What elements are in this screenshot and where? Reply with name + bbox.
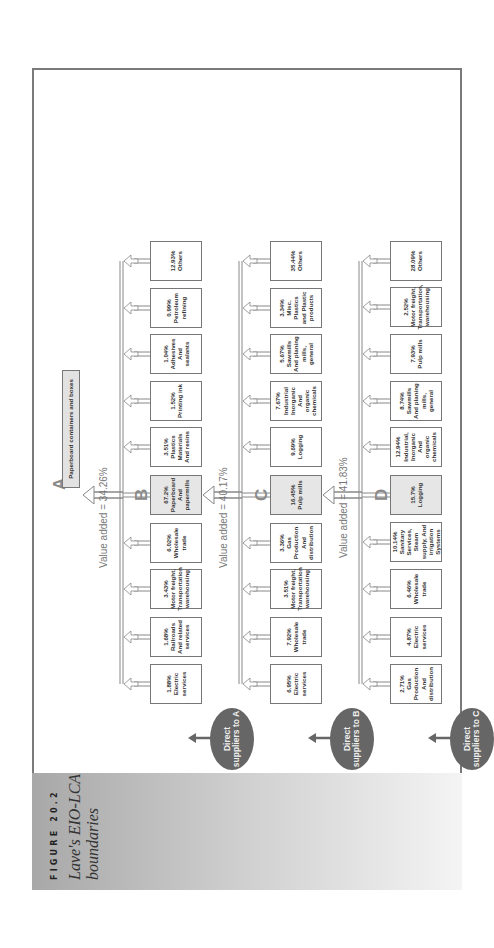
- sector-name: Pulp mills: [416, 339, 423, 368]
- main-sector-box: 15.7%Logging: [390, 475, 442, 515]
- sector-percent: 9.69%: [289, 435, 296, 459]
- sector-percent: 5.67%: [278, 336, 285, 372]
- sector-name: Electric services: [292, 666, 306, 702]
- sector-name: Gas Production And distribution: [405, 666, 434, 702]
- sector-percent: 3.34%: [278, 290, 285, 326]
- sector-percent: 1.68%: [162, 619, 169, 655]
- sector-percent: 6.46%: [405, 571, 412, 607]
- sector-percent: 7.67%: [274, 383, 281, 419]
- sector-name: Industrial Inorganic And organic chemica…: [282, 383, 318, 419]
- sector-percent: 1.88%: [165, 666, 172, 702]
- supplier-box: 7.92%Wholesale trade: [270, 617, 322, 657]
- supplier-box: 1.68%Railroads And related services: [150, 617, 202, 657]
- sector-name: Paperboard And papermills: [169, 477, 191, 513]
- supplier-box: 1.88%Electric services: [150, 664, 202, 704]
- sector-percent: 1.04%: [162, 336, 169, 372]
- sector-percent: 8.74%: [398, 383, 405, 419]
- supplier-box: 1.52%Printing ink: [150, 381, 202, 421]
- sector-percent: 3.51%: [162, 429, 169, 465]
- sector-name: Logging: [296, 435, 303, 459]
- supplier-box: 1.04%Adhesives And sealants: [150, 334, 202, 374]
- supplier-box: 6.46%Wholesale trade: [390, 569, 442, 609]
- sector-name: Electric services: [412, 619, 426, 655]
- supplier-box: 6.02%Wholesale trade: [150, 523, 202, 563]
- supplier-box: 35.44%Others: [270, 241, 322, 281]
- supplier-box: 10.14%Sanitary Services, Steam supply, A…: [390, 522, 442, 562]
- sector-percent: 16.45%: [289, 480, 296, 509]
- supplier-box: 2.71%Gas Production And distribution: [390, 664, 442, 704]
- main-sector-box: 67.2%Paperboard And papermills: [150, 475, 202, 515]
- sector-percent: 4.87%: [405, 619, 412, 655]
- supplier-box: 12.93%Others: [150, 241, 202, 281]
- sector-name: Motor freight, Transportation warehousin…: [289, 567, 311, 610]
- sector-percent: 2.71%: [398, 666, 405, 702]
- supplier-box: 9.69%Logging: [270, 427, 322, 467]
- sector-percent: 67.2%: [162, 477, 169, 513]
- sector-percent: 35.44%: [289, 251, 296, 272]
- sector-percent: 10.14%: [391, 524, 398, 560]
- sector-name: Motor freight, Transportation, warehousi…: [409, 284, 431, 329]
- direct-suppliers-ellipse: Direct suppliers to B: [330, 708, 374, 770]
- sector-name: Wholesale trade: [412, 571, 426, 607]
- sector-percent: 2.52%: [402, 284, 409, 329]
- sector-name: Sawmills And planing mills, general: [405, 383, 434, 419]
- sector-name: Sawmills And planing mills, general: [285, 336, 314, 372]
- value-added-label: Value added = 40.17%: [218, 467, 229, 568]
- supplier-box: 7.93%Pulp mills: [390, 334, 442, 374]
- sector-percent: 3.43%: [162, 567, 169, 610]
- sector-name: Plastics Materials And resins: [169, 429, 191, 465]
- root-box: Paperboard containers and boxes: [62, 370, 80, 488]
- sector-name: Misc. Plastics and Plastic products: [285, 290, 314, 326]
- sector-percent: 3.36%: [278, 525, 285, 561]
- supplier-box: 5.67%Sawmills And planing mills, general: [270, 334, 322, 374]
- sector-name: Logging: [416, 483, 423, 507]
- sector-name: Railroads And related services: [169, 619, 191, 655]
- sector-name: Electric services: [172, 666, 186, 702]
- supplier-box: 0.99%Petroleum refining: [150, 288, 202, 328]
- sector-percent: 28.09%: [409, 251, 416, 272]
- supplier-box: 8.74%Sawmills And planing mills, general: [390, 381, 442, 421]
- sector-percent: 6.95%: [285, 666, 292, 702]
- supplier-box: 2.52%Motor freight, Transportation, ware…: [390, 287, 442, 327]
- direct-suppliers-ellipse: Direct suppliers to A: [210, 708, 254, 770]
- sector-name: Adhesives And sealants: [169, 336, 191, 372]
- sector-percent: 6.02%: [165, 525, 172, 561]
- node-letter: D: [372, 489, 392, 501]
- sector-percent: 0.99%: [165, 290, 172, 326]
- value-added-label: Value added = 34.26%: [98, 467, 109, 568]
- sector-name: Industrial, Inorganic And organic chemic…: [402, 429, 438, 465]
- sector-name: Wholesale trade: [172, 525, 186, 561]
- sector-percent: 15.7%: [409, 483, 416, 507]
- supplier-box: 3.43%Motor freight, Transportation wareh…: [150, 569, 202, 609]
- supplier-box: 28.09%Others: [390, 241, 442, 281]
- figure-title: Lave's EIO-LCA boundaries: [66, 770, 102, 880]
- sector-name: Others: [176, 251, 183, 272]
- sector-name: Pulp mills: [296, 480, 303, 509]
- sector-percent: 7.92%: [285, 619, 292, 655]
- sector-name: Motor freight, Transportation warehousin…: [169, 567, 191, 610]
- supplier-box: 3.51%Plastics Materials And resins: [150, 427, 202, 467]
- supplier-box: 4.87%Electric services: [390, 617, 442, 657]
- sector-percent: 12.94%: [394, 429, 401, 465]
- supplier-box: 7.67%Industrial Inorganic And organic ch…: [270, 381, 322, 421]
- figure-number: FIGURE 20.2: [50, 789, 59, 880]
- main-sector-box: 16.45%Pulp mills: [270, 475, 322, 515]
- sector-percent: 3.51%: [282, 567, 289, 610]
- sector-percent: 12.93%: [169, 251, 176, 272]
- supplier-box: 3.36%Gas Production And distribution: [270, 523, 322, 563]
- sector-name: Gas Production And distribution: [285, 525, 314, 561]
- sector-name: Others: [296, 251, 303, 272]
- supplier-box: 3.51%Motor freight, Transportation wareh…: [270, 569, 322, 609]
- node-letter: C: [252, 489, 272, 501]
- supplier-box: 12.94%Industrial, Inorganic And organic …: [390, 427, 442, 467]
- sector-name: Others: [416, 251, 423, 272]
- value-added-label: Value added = 41.83%: [338, 457, 349, 558]
- sector-name: Sanitary Services, Steam supply, And irr…: [398, 524, 441, 560]
- node-letter: B: [132, 489, 152, 501]
- supplier-box: 6.95%Electric services: [270, 664, 322, 704]
- direct-suppliers-ellipse: Direct suppliers to C: [450, 708, 494, 770]
- sector-name: Petroleum refining: [172, 290, 186, 326]
- sector-percent: 1.52%: [169, 384, 176, 418]
- sector-percent: 7.93%: [409, 339, 416, 368]
